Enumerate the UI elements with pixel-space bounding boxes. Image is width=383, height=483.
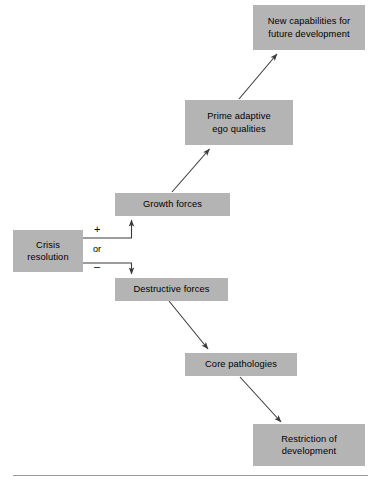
node-crisis-resolution-label: Crisis resolution — [23, 239, 72, 263]
node-prime-adaptive-ego-qualities: Prime adaptive ego qualities — [185, 100, 293, 145]
node-new-capabilities: New capabilities for future development — [253, 5, 365, 50]
node-prime-adaptive-ego-qualities-label: Prime adaptive ego qualities — [203, 110, 274, 134]
branch-label-positive: + — [94, 224, 100, 234]
node-new-capabilities-label: New capabilities for future development — [264, 15, 355, 39]
footer-divider — [13, 475, 368, 476]
edge-crisis-to-destructive — [83, 263, 132, 274]
node-core-pathologies-label: Core pathologies — [201, 358, 281, 370]
branch-label-or: or — [93, 244, 101, 254]
edge-destructive-to-core — [169, 301, 208, 349]
node-growth-forces-label: Growth forces — [139, 198, 206, 210]
node-restriction-of-development: Restriction of development — [253, 424, 365, 466]
edge-prime-to-new-capabilities — [239, 54, 277, 99]
edge-core-to-restriction — [240, 377, 281, 422]
edge-growth-to-prime — [172, 149, 210, 192]
diagram-canvas: New capabilities for future development … — [0, 0, 383, 483]
edge-crisis-to-growth — [83, 220, 132, 238]
node-restriction-of-development-label: Restriction of development — [277, 433, 341, 457]
node-destructive-forces: Destructive forces — [115, 278, 228, 301]
branch-label-negative: – — [94, 261, 100, 271]
node-core-pathologies: Core pathologies — [185, 353, 297, 376]
node-growth-forces: Growth forces — [115, 193, 230, 216]
node-destructive-forces-label: Destructive forces — [129, 283, 213, 295]
node-crisis-resolution: Crisis resolution — [13, 230, 83, 272]
